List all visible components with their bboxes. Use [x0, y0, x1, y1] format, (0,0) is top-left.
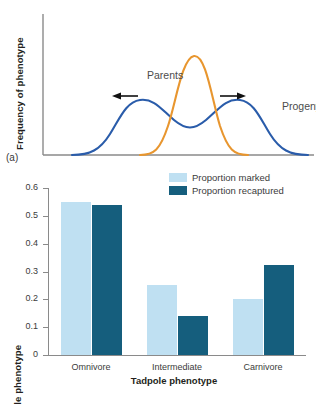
- y-tick-label: 0.5: [8, 210, 38, 220]
- y-tick: [43, 355, 48, 356]
- progeny-curve: [72, 100, 308, 155]
- parents-curve-label: Parents: [147, 69, 183, 81]
- y-tick-label: 0.2: [8, 293, 38, 303]
- y-tick-label: 0.3: [8, 266, 38, 276]
- panel-a-y-axis-label: Frequency of phenotype: [14, 37, 25, 150]
- panel-a: Frequency of phenotype: [0, 0, 316, 170]
- legend-label-marked: Proportion marked: [192, 172, 270, 183]
- category-label-intermediate: Intermediate: [137, 362, 217, 372]
- chart-legend: Proportion marked Proportion recaptured: [169, 172, 284, 198]
- arrow-right-icon: [220, 92, 246, 99]
- legend-item-recaptured: Proportion recaptured: [169, 185, 284, 196]
- y-tick-label: 0: [8, 349, 38, 359]
- bar-omnivore-recaptured: [92, 205, 122, 355]
- panel-c-x-axis-title: Tadpole phenotype: [16, 375, 316, 386]
- category-label-carnivore: Carnivore: [223, 362, 303, 372]
- panel-c: Proportion of each tadpole phenotype 00.…: [0, 170, 316, 404]
- arrow-left-icon: [112, 92, 138, 99]
- bar-carnivore-recaptured: [264, 265, 294, 355]
- panel-a-letter: (a): [6, 152, 18, 163]
- y-tick-label: 0.1: [8, 321, 38, 331]
- bar-intermediate-marked: [147, 285, 177, 355]
- figure-container: Frequency of phenotype: [0, 0, 316, 404]
- bar-intermediate-recaptured: [178, 316, 208, 355]
- legend-item-marked: Proportion marked: [169, 172, 284, 183]
- y-tick-label: 0.6: [8, 182, 38, 192]
- legend-swatch-recaptured: [169, 186, 187, 195]
- progeny-curve-label: Progeny: [282, 100, 316, 112]
- bar-carnivore-marked: [233, 299, 263, 355]
- bar-omnivore-marked: [61, 202, 91, 355]
- legend-label-recaptured: Proportion recaptured: [192, 185, 284, 196]
- y-tick-label: 0.4: [8, 238, 38, 248]
- bars-group: [48, 188, 306, 355]
- panel-a-plot-area: Parents Progeny: [42, 14, 314, 158]
- distribution-curves-svg: [42, 14, 314, 158]
- legend-swatch-marked: [169, 173, 187, 182]
- panel-c-x-axis: [48, 355, 306, 356]
- category-label-omnivore: Omnivore: [51, 362, 131, 372]
